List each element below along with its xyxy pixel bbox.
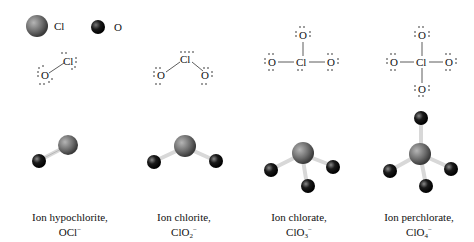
svg-text:O: O: [418, 83, 426, 95]
caption-hypochlorite: Ion hypochlorite, OCl−: [15, 211, 125, 242]
svg-text:Cl: Cl: [63, 55, 73, 67]
svg-text:Cl: Cl: [296, 56, 306, 68]
model-hypochlorite: [32, 135, 78, 168]
svg-text:Cl: Cl: [416, 56, 426, 68]
svg-text:O: O: [445, 56, 453, 68]
ball-and-stick-models: [0, 110, 474, 200]
ion-formula: ClO4−: [364, 224, 474, 242]
ion-name: Ion perchlorate,: [364, 211, 474, 224]
lewis-perchlorate: O O Cl O O: [386, 26, 457, 97]
svg-text:O: O: [390, 56, 398, 68]
model-chlorate: [264, 142, 340, 193]
caption-chlorate: Ion chlorate, ClO3−: [244, 211, 354, 242]
ion-name: Ion chlorite,: [129, 211, 239, 224]
lewis-chlorite: Cl O O: [153, 51, 213, 85]
model-perchlorate: [383, 111, 458, 193]
caption-perchlorate: Ion perchlorate, ClO4−: [364, 211, 474, 242]
ion-name: Ion chlorate,: [244, 211, 354, 224]
svg-text:O: O: [157, 69, 165, 81]
svg-text:O: O: [418, 29, 426, 41]
ion-formula: OCl−: [15, 224, 125, 242]
svg-text:O: O: [41, 69, 49, 81]
model-chlorite: [147, 135, 223, 169]
caption-chlorite: Ion chlorite, ClO2−: [129, 211, 239, 242]
svg-text:O: O: [327, 56, 335, 68]
lewis-structures: Cl O Cl O O O O: [0, 0, 474, 120]
ion-name: Ion hypochlorite,: [15, 211, 125, 224]
ion-formula: ClO3−: [244, 224, 354, 242]
ion-formula: ClO2−: [129, 224, 239, 242]
lewis-hypochlorite: Cl O: [37, 52, 77, 85]
lewis-chlorate: O O Cl O: [264, 26, 339, 71]
svg-text:O: O: [299, 29, 307, 41]
svg-text:O: O: [268, 56, 276, 68]
svg-text:Cl: Cl: [180, 53, 190, 65]
